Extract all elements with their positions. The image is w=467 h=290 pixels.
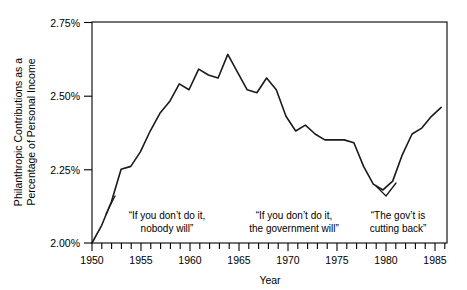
annotation-1980s: “The gov’t is cutting back” bbox=[370, 210, 427, 234]
annotation-1950s-line2: nobody will” bbox=[141, 223, 194, 234]
x-axis-tick-labels: 1950 1955 1960 1965 1970 1975 1980 1985 bbox=[80, 254, 447, 266]
annotation-1960s-70s-line1: “If you don’t do it, bbox=[256, 210, 333, 221]
annotation-1960s-70s: “If you don’t do it, the government will… bbox=[249, 210, 338, 234]
chart-figure: 2.75% 2.50% 2.25% 2.00% bbox=[0, 0, 467, 290]
y-axis-title: Philanthropic Contributions as a Percent… bbox=[12, 58, 37, 206]
annotation-1950s: “If you don’t do it, nobody will” bbox=[129, 210, 206, 234]
x-tick-label-1985: 1985 bbox=[423, 254, 447, 266]
y-tick-label-275: 2.75% bbox=[50, 17, 80, 29]
y-axis-title-line2: Percentage of Personal Income bbox=[25, 58, 37, 205]
x-tick-label-1955: 1955 bbox=[129, 254, 153, 266]
x-tick-label-1980: 1980 bbox=[374, 254, 398, 266]
x-axis-ticks bbox=[92, 243, 445, 251]
annotation-leader-1980s bbox=[376, 183, 396, 196]
x-tick-label-1975: 1975 bbox=[325, 254, 349, 266]
annotation-leader-1950s bbox=[106, 196, 115, 214]
annotation-1980s-line2: cutting back” bbox=[370, 223, 427, 234]
annotation-1950s-line1: “If you don’t do it, bbox=[129, 210, 206, 221]
y-tick-label-250: 2.50% bbox=[50, 90, 80, 102]
x-axis-title: Year bbox=[259, 274, 281, 286]
annotation-1980s-line1: “The gov’t is bbox=[371, 210, 425, 221]
y-tick-label-200: 2.00% bbox=[50, 237, 80, 249]
y-axis-ticks bbox=[84, 23, 92, 244]
y-tick-label-225: 2.25% bbox=[50, 164, 80, 176]
chart-canvas: 2.75% 2.50% 2.25% 2.00% bbox=[0, 0, 467, 290]
x-tick-label-1965: 1965 bbox=[227, 254, 251, 266]
x-tick-label-1950: 1950 bbox=[80, 254, 104, 266]
x-tick-label-1970: 1970 bbox=[276, 254, 300, 266]
y-axis-tick-labels: 2.75% 2.50% 2.25% 2.00% bbox=[50, 17, 80, 250]
x-tick-label-1960: 1960 bbox=[178, 254, 202, 266]
y-axis-title-line1: Philanthropic Contributions as a bbox=[12, 58, 24, 206]
annotation-1960s-70s-line2: the government will” bbox=[249, 223, 338, 234]
